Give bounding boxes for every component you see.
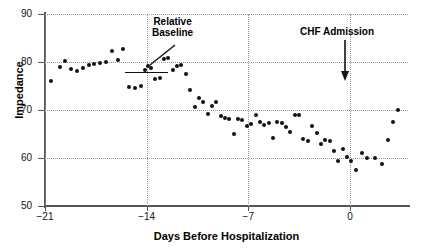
data-point [301,137,305,141]
data-point [284,125,288,129]
data-point [188,88,192,92]
data-point [75,69,79,73]
y-axis-tick [38,110,45,111]
chf-admission-annotation: CHF Admission [300,26,374,37]
data-point [380,162,384,166]
data-point [345,155,349,159]
data-point [81,66,85,70]
data-point [396,108,400,112]
data-point [133,86,137,90]
data-point [171,68,175,72]
data-point [306,139,310,143]
data-point [297,113,301,117]
relative-baseline-leader-line [148,44,178,66]
data-point [319,142,323,146]
gridline-vertical [45,14,46,206]
relative-baseline-annotation: Relative Baseline [152,16,193,38]
data-point [232,132,236,136]
data-point [104,60,108,64]
data-point [63,59,67,63]
data-point [271,136,275,140]
data-point [360,151,364,155]
impedance-chart-figure: Impedance Days Before Hospitalization Re… [0,0,422,249]
data-point [365,156,369,160]
y-axis-tick [38,158,45,159]
data-point [49,79,53,83]
data-point [332,149,336,153]
data-point [323,138,327,142]
y-axis-tick-label: 50 [2,201,32,211]
data-point [310,124,314,128]
x-axis-tick-label: 0 [330,212,370,222]
y-axis-tick [38,206,45,207]
data-point [262,123,266,127]
data-point [336,159,340,163]
data-point [210,104,214,108]
data-point [98,61,102,65]
gridline-horizontal [45,158,408,159]
data-point [158,76,162,80]
y-axis-tick-label: 60 [2,153,32,163]
data-point [288,130,292,134]
x-axis-tick-label: −21 [25,212,65,222]
data-point [153,77,157,81]
gridline-vertical [147,14,148,206]
data-point [149,66,153,70]
data-point [391,120,395,124]
data-point [121,47,125,51]
y-axis-tick [38,14,45,15]
gridline-horizontal [45,14,408,15]
data-point [254,113,258,117]
data-point [139,84,143,88]
data-point [328,139,332,143]
data-point [69,67,73,71]
data-point [249,122,253,126]
data-point [193,105,197,109]
y-axis-tick-label: 70 [2,105,32,115]
data-point [92,62,96,66]
x-axis-tick-label: −7 [228,212,268,222]
data-point [201,100,205,104]
relative-baseline-segment [125,72,169,73]
data-point [354,168,358,172]
data-point [116,58,120,62]
y-axis-tick-label: 90 [2,9,32,19]
data-point [197,96,201,100]
data-point [206,112,210,116]
data-point [87,63,91,67]
data-point [184,72,188,76]
data-point [267,121,271,125]
data-point [179,63,183,67]
plot-area [45,14,408,206]
chf-admission-arrow-icon [339,40,351,82]
data-point [373,156,377,160]
gridline-vertical [248,14,249,206]
data-point [349,159,353,163]
data-point [341,147,345,151]
data-point [227,117,231,121]
data-point [110,49,114,53]
data-point [280,121,284,125]
data-point [315,131,319,135]
data-point [214,100,218,104]
x-axis-title: Days Before Hospitalization [45,230,408,242]
y-axis-tick-label: 80 [2,57,32,67]
data-point [386,138,390,142]
data-point [275,120,279,124]
data-point [240,118,244,122]
data-point [127,85,131,89]
x-axis-tick-label: −14 [127,212,167,222]
gridline-horizontal [45,110,408,111]
y-axis-tick [38,62,45,63]
data-point [58,65,62,69]
